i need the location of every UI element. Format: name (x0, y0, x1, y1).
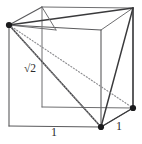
tetra-edge-fbr-btr (101, 8, 133, 127)
vertex-dot-back-bottom-right (130, 105, 136, 111)
vertex-dot-front-bottom-right (98, 124, 104, 130)
label-face-diagonal: √2 (24, 63, 36, 75)
tetra-edge-ftl-btr (9, 8, 133, 25)
vertex-dot-front-top-left (6, 22, 12, 28)
cube-edge-back-bottom (42, 107, 133, 108)
label-right-edge: 1 (116, 120, 122, 132)
cube-edge-back-top (42, 7, 133, 8)
vertex-dots (6, 22, 136, 130)
label-bottom-edge: 1 (51, 126, 57, 138)
geometry-figure: √2 1 1 (0, 0, 142, 144)
